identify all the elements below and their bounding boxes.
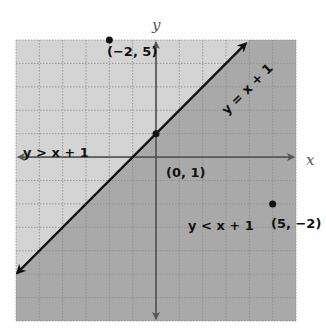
- data-point: [106, 37, 113, 44]
- data-point: [153, 130, 160, 137]
- point-label-a: (−2, 5): [107, 44, 157, 59]
- point-label-c: (5, −2): [271, 216, 321, 231]
- upper-region-label: y > x + 1: [23, 145, 89, 160]
- y-axis-label: y: [151, 16, 161, 34]
- inequality-graph: y x y > x + 1 y < x + 1 y = x + 1 (−2, 5…: [0, 0, 326, 332]
- point-label-b: (0, 1): [166, 165, 205, 180]
- data-point: [269, 200, 276, 207]
- lower-region-label: y < x + 1: [188, 218, 254, 233]
- x-axis-label: x: [306, 151, 315, 169]
